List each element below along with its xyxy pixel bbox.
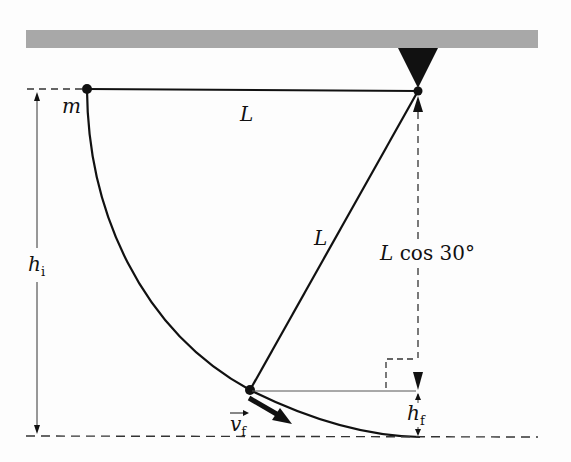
mass-final bbox=[245, 385, 255, 395]
vf-label: vf bbox=[230, 414, 246, 438]
hf-arrow-down bbox=[415, 429, 421, 436]
lcos30-label: L cos 30° bbox=[378, 243, 477, 263]
hi-arrow-down bbox=[34, 425, 40, 434]
pivot-support bbox=[398, 48, 438, 88]
length-label-diagonal: L bbox=[314, 228, 327, 248]
baseline bbox=[26, 436, 538, 437]
hi-label: hi bbox=[28, 254, 45, 278]
diagram-graphics bbox=[0, 0, 571, 462]
hf-label: hf bbox=[407, 403, 425, 427]
hf-arrow-up bbox=[415, 393, 421, 400]
pendulum-diagram: m L L L cos 30° hi hf vf bbox=[0, 0, 571, 462]
velocity-vector bbox=[249, 398, 280, 416]
ceiling-bar bbox=[26, 30, 538, 48]
right-angle-marker bbox=[386, 359, 416, 388]
hi-arrow-up bbox=[34, 92, 40, 101]
string-initial bbox=[87, 89, 418, 91]
mass-initial bbox=[82, 84, 92, 94]
length-label-top: L bbox=[240, 104, 253, 124]
lcos-arrow-down bbox=[413, 372, 423, 390]
mass-label: m bbox=[62, 96, 81, 116]
pivot-point bbox=[414, 87, 423, 96]
